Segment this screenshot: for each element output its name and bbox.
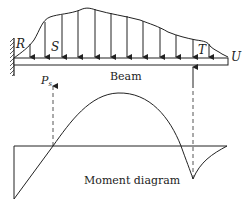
label-ps: Ps [40, 74, 52, 88]
beam-label: Beam [110, 70, 142, 83]
label-s: S [51, 40, 59, 54]
beam-moment-diagram: R S T U Beam Ps Moment diagram [0, 0, 247, 213]
fixed-wall-support [10, 38, 14, 76]
moment-diagram-label: Moment diagram [84, 174, 181, 187]
beam [14, 58, 228, 65]
label-r: R [15, 37, 25, 51]
moment-curve-tail [193, 146, 227, 179]
label-t: T [198, 43, 207, 57]
label-u: U [231, 50, 242, 64]
load-distribution-curve [14, 8, 228, 58]
